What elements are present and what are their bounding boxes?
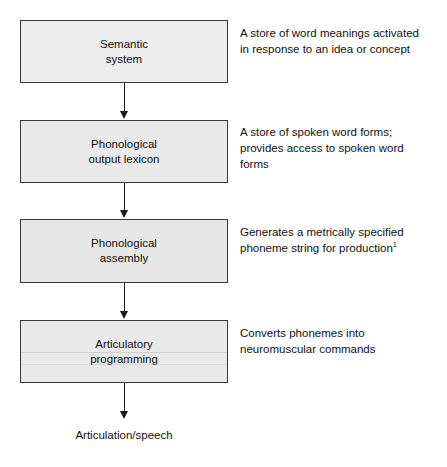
- down-arrow-icon: [118, 83, 131, 120]
- output-label-articulation-speech: Articulation/speech: [20, 428, 228, 443]
- stage-box-label-line: programming: [90, 352, 158, 367]
- stage-box-semantic-system: Semantic system: [20, 20, 228, 83]
- arrow-head: [120, 111, 128, 119]
- stage-box-label-line: Semantic: [100, 37, 148, 52]
- arrow-head: [120, 411, 128, 419]
- down-arrow-icon: [118, 183, 131, 219]
- description-line: A store of word meanings activated: [240, 25, 440, 41]
- stage-description-phonological-assembly: Generates a metrically specified phoneme…: [240, 224, 440, 256]
- down-arrow-icon: [118, 383, 131, 420]
- stage-box-label-line: system: [106, 52, 142, 67]
- description-line: Generates a metrically specified: [240, 224, 440, 240]
- process-flow-diagram: Semantic system A store of word meanings…: [0, 0, 447, 467]
- arrow-shaft: [124, 283, 125, 312]
- down-arrow-icon: [118, 283, 131, 320]
- stage-box-phonological-output-lexicon: Phonological output lexicon: [20, 120, 228, 183]
- footnote-marker: 1: [393, 240, 397, 249]
- description-line: provides access to spoken word: [240, 140, 440, 156]
- stage-description-semantic-system: A store of word meanings activated in re…: [240, 25, 440, 57]
- description-line: A store of spoken word forms;: [240, 124, 440, 140]
- arrow-shaft: [124, 83, 125, 112]
- stage-description-articulatory-programming: Converts phonemes into neuromuscular com…: [240, 325, 440, 357]
- arrow-head: [120, 311, 128, 319]
- description-line-text: phoneme string for production: [240, 242, 393, 254]
- description-line: in response to an idea or concept: [240, 41, 440, 57]
- stage-box-label-line: Phonological: [91, 236, 157, 251]
- description-line: forms: [240, 156, 440, 172]
- description-line: Converts phonemes into: [240, 325, 440, 341]
- arrow-head: [120, 210, 128, 218]
- arrow-shaft: [124, 383, 125, 412]
- description-line: neuromuscular commands: [240, 341, 440, 357]
- arrow-shaft: [124, 183, 125, 211]
- stage-box-phonological-assembly: Phonological assembly: [20, 219, 228, 283]
- stage-box-articulatory-programming: Articulatory programming: [20, 320, 228, 383]
- stage-box-label-line: Phonological: [91, 137, 157, 152]
- stage-box-label-line: assembly: [100, 251, 149, 266]
- stage-box-label-line: output lexicon: [89, 152, 160, 167]
- description-line-with-footnote: phoneme string for production1: [240, 240, 440, 256]
- stage-description-phonological-output-lexicon: A store of spoken word forms; provides a…: [240, 124, 440, 172]
- stage-box-label-line: Articulatory: [95, 337, 153, 352]
